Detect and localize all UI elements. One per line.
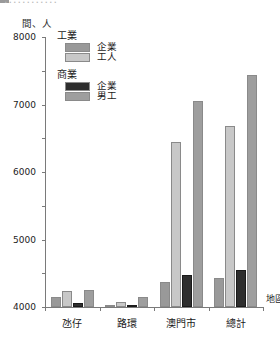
bar (138, 297, 148, 307)
y-axis-tick: 8000 (42, 37, 46, 38)
x-axis-title: 地區 (266, 292, 280, 305)
cropped-title-text: ............ (4, 0, 58, 6)
y-axis-tick-label: 6000 (13, 167, 36, 177)
bar (193, 101, 203, 307)
bar (62, 291, 72, 307)
y-axis-unit-label: 間、人 (22, 16, 52, 30)
x-axis-category-label: 路環 (117, 315, 137, 330)
legend-group-heading: 商業 (57, 69, 117, 80)
y-axis-tick: 6000 (42, 105, 46, 106)
y-axis-tick: 5000 (42, 138, 46, 139)
legend-item-industry_workers[interactable]: 工人 (65, 52, 117, 62)
y-axis-tick-label: 5000 (13, 235, 36, 245)
legend-swatch-icon (65, 92, 90, 101)
bar (51, 297, 61, 307)
x-axis-tick (154, 307, 155, 311)
x-axis-tick (263, 307, 264, 311)
legend-swatch-icon (65, 53, 90, 62)
legend-swatch-icon (65, 43, 90, 52)
y-axis-tick: 4000 (42, 172, 46, 173)
y-axis-tick: 2000 (42, 240, 46, 241)
bar (247, 75, 257, 307)
bar (116, 302, 126, 307)
legend-item-commerce_male_workers[interactable]: 男工 (65, 91, 117, 101)
x-axis-tick (45, 307, 46, 311)
y-axis-tick: 7000 (42, 71, 46, 72)
y-axis-tick: 3000 (42, 206, 46, 207)
bar (225, 126, 235, 307)
legend-item-label: 工人 (97, 52, 117, 62)
x-axis-category-label: 氹仔 (62, 315, 82, 330)
legend-group-heading: 工業 (57, 30, 117, 41)
bar (84, 290, 94, 307)
legend-group-spacer (57, 62, 117, 69)
x-axis-category-label: 澳門市 (166, 315, 196, 330)
y-axis-tick-label: 8000 (13, 32, 36, 42)
chart-legend: 工業企業工人商業企業男工 (57, 30, 117, 101)
bar (214, 278, 224, 307)
cropped-title-strip: ............ (0, 0, 280, 14)
bar (105, 305, 115, 307)
bar (171, 142, 181, 307)
bar (160, 282, 170, 307)
bar-chart: ............ 間、人 80007000600050004000300… (0, 0, 280, 340)
x-axis-tick (100, 307, 101, 311)
y-axis-tick: 1000 (42, 273, 46, 274)
bar (127, 305, 137, 307)
y-axis-tick-label: 7000 (13, 100, 36, 110)
x-axis-tick (209, 307, 210, 311)
legend-swatch-icon (65, 82, 90, 91)
bar (236, 270, 246, 307)
bar (182, 275, 192, 307)
bar (73, 303, 83, 307)
legend-item-label: 男工 (97, 91, 117, 101)
x-axis-category-label: 總計 (226, 315, 246, 330)
y-axis-tick-label: 4000 (13, 302, 36, 312)
